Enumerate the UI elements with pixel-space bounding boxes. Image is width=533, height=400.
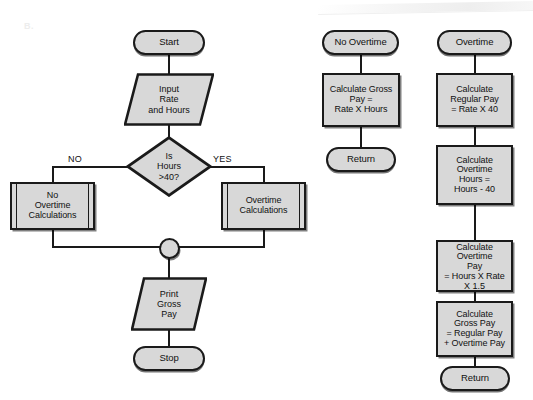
node-no-overtime-calc-gross-label: Calculate Gross Pay = Rate X Hours — [330, 85, 393, 114]
node-start: Start — [133, 30, 205, 55]
flow-line-merge-left — [52, 246, 160, 248]
flow-line-no-vertical — [52, 166, 54, 183]
node-overtime-calc-regular-pay-label: Calculate Regular Pay = Rate X 40 — [450, 85, 498, 114]
scan-artifact — [318, 1, 533, 15]
node-no-overtime-calc-gross: Calculate Gross Pay = Rate X Hours — [322, 73, 400, 127]
node-overtime-entry-label: Overtime — [456, 37, 494, 47]
flow-line-no-box-down — [52, 230, 54, 247]
node-print-gross-pay: Print Gross Pay — [131, 277, 207, 331]
node-overtime-return: Return — [440, 366, 510, 391]
node-stop-label: Stop — [159, 353, 178, 363]
flow-line-yes-vertical — [263, 166, 265, 183]
figure-part-label: B. — [24, 21, 34, 31]
flow-line-no-ot-calc-to-return — [360, 127, 362, 148]
node-overtime-entry: Overtime — [437, 30, 512, 55]
flow-line-merge-right — [177, 246, 265, 248]
node-overtime-return-label: Return — [461, 373, 489, 383]
flow-line-start-to-input — [168, 55, 170, 74]
node-decision-hours-label: Is Hours >40? — [126, 136, 212, 197]
flow-line-ot-hours-to-pay — [474, 205, 476, 242]
node-overtime-calc-gross-pay: Calculate Gross Pay = Regular Pay + Over… — [436, 301, 513, 357]
node-no-overtime-return-label: Return — [347, 154, 375, 164]
node-overtime-calc-ot-hours-label: Calculate Overtime Hours = Hours - 40 — [454, 156, 495, 195]
node-overtime-calc-ot-pay-overflow: X 1.5 — [436, 281, 513, 291]
node-print-gross-pay-label: Print Gross Pay — [131, 277, 207, 331]
node-overtime-calc-regular-pay: Calculate Regular Pay = Rate X 40 — [436, 73, 513, 127]
flow-line-yes-box-down — [263, 230, 265, 247]
node-decision-hours: Is Hours >40? — [126, 136, 212, 197]
node-stop: Stop — [133, 346, 205, 371]
node-start-label: Start — [159, 37, 179, 47]
node-overtime-calc-ot-pay-label: Calculate Overtime Pay = Hours X Rate — [444, 243, 504, 282]
node-no-overtime-calculations: No Overtime Calculations — [10, 182, 95, 230]
node-overtime-calc-ot-hours: Calculate Overtime Hours = Hours - 40 — [436, 145, 513, 205]
flow-line-ot-entry-to-regular — [474, 55, 476, 74]
flow-line-no-horizontal — [52, 166, 128, 168]
flow-line-yes-horizontal — [210, 166, 265, 168]
flow-line-ot-regular-to-hours — [474, 127, 476, 146]
node-overtime-calculations-label: Overtime Calculations — [240, 196, 288, 215]
branch-label-no: NO — [68, 154, 82, 164]
branch-label-yes: YES — [213, 154, 232, 164]
connector-node — [159, 238, 180, 259]
node-no-overtime-calculations-label: No Overtime Calculations — [29, 191, 77, 220]
flowchart-canvas: B. Start Input Rate and Hours Is Hours >… — [0, 0, 533, 400]
node-overtime-calc-gross-pay-label: Calculate Gross Pay = Regular Pay + Over… — [444, 310, 505, 349]
node-no-overtime-entry: No Overtime — [322, 30, 399, 55]
node-input-rate-hours-label: Input Rate and Hours — [124, 73, 214, 126]
node-input-rate-hours: Input Rate and Hours — [124, 73, 214, 126]
flow-line-no-ot-entry-to-calc — [360, 55, 362, 74]
node-no-overtime-entry-label: No Overtime — [334, 37, 386, 47]
node-no-overtime-return: Return — [326, 147, 396, 172]
node-overtime-calculations: Overtime Calculations — [221, 182, 306, 230]
